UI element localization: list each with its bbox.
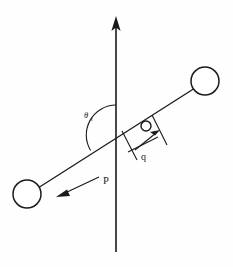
mass-lower-left bbox=[13, 180, 41, 208]
pendulum-diagram: θ s q P bbox=[0, 0, 233, 267]
bead-marker-icon bbox=[141, 121, 151, 131]
offset-label-q: q bbox=[141, 151, 146, 162]
angle-label-subscript: s bbox=[91, 116, 93, 122]
angle-label-theta: θ bbox=[84, 110, 88, 120]
mass-upper-right bbox=[191, 67, 219, 95]
figure-root: θ s q P bbox=[0, 0, 233, 267]
force-label-p: P bbox=[103, 175, 109, 186]
